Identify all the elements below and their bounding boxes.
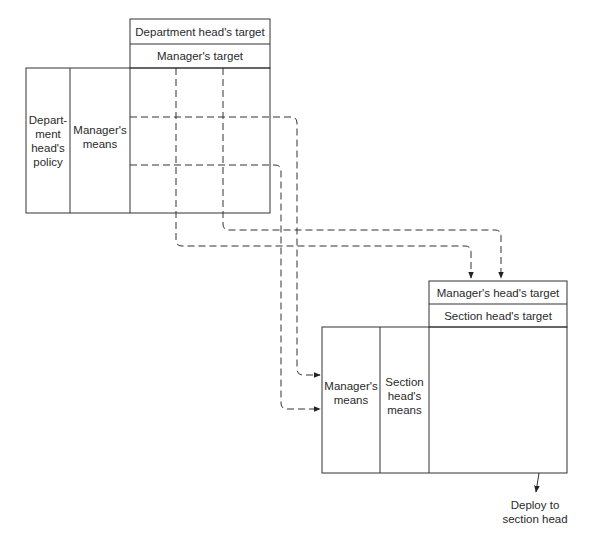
section-head-target-label: Section head's target — [429, 304, 567, 327]
section-head-means-label: Section head's means — [380, 327, 429, 473]
connector-col1 — [176, 68, 471, 278]
manager-head-target-label: Manager's head's target — [429, 281, 567, 304]
department-head-target-label: Department head's target — [130, 19, 270, 44]
connector-row3 — [130, 165, 320, 409]
department-head-policy-label: Depart- ment head's policy — [26, 68, 70, 213]
deploy-to-section-head-label: Deploy to section head — [495, 498, 575, 526]
manager-target-label: Manager's target — [130, 44, 270, 68]
lower-manager-means-label: Manager's means — [322, 327, 380, 473]
upper-manager-means-label: Manager's means — [70, 68, 130, 213]
deploy-arrow — [536, 473, 539, 492]
